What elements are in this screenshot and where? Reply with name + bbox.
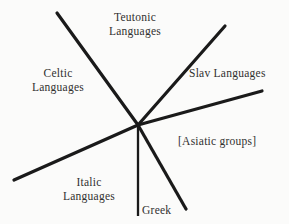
label-italic-line1: Italic bbox=[44, 175, 134, 189]
label-italic-line2: Languages bbox=[44, 189, 134, 203]
label-slav-languages: Slav Languages bbox=[189, 66, 285, 80]
label-teutonic-languages: Teutonic Languages bbox=[88, 10, 182, 38]
label-asiatic-groups: [Asiatic groups] bbox=[178, 134, 284, 148]
label-celtic-line2: Languages bbox=[12, 80, 104, 94]
label-greek-line1: Greek bbox=[142, 203, 192, 217]
label-slav-line1: Slav Languages bbox=[189, 66, 285, 80]
label-teutonic-line1: Teutonic bbox=[88, 10, 182, 24]
label-greek: Greek bbox=[142, 203, 192, 217]
branch-line-italic bbox=[14, 125, 138, 180]
label-teutonic-line2: Languages bbox=[88, 24, 182, 38]
label-italic-languages: Italic Languages bbox=[44, 175, 134, 203]
language-family-diagram: Teutonic Languages Celtic Languages Slav… bbox=[0, 0, 289, 224]
branch-line-asiatic bbox=[138, 91, 262, 125]
label-asiatic-line1: [Asiatic groups] bbox=[178, 134, 284, 148]
label-celtic-line1: Celtic bbox=[12, 66, 104, 80]
label-celtic-languages: Celtic Languages bbox=[12, 66, 104, 94]
